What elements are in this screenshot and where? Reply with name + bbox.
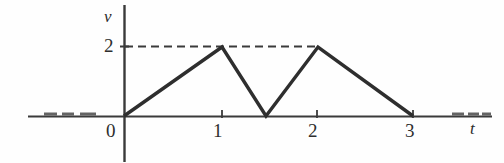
x-tick-label-3: 3 xyxy=(405,121,415,140)
y-tick-label-2: 2 xyxy=(104,36,114,55)
scan-artifacts-left xyxy=(44,113,96,116)
velocity-curve xyxy=(124,47,413,116)
y-axis-label: v xyxy=(104,8,112,25)
x-tick-label-1: 1 xyxy=(213,121,223,140)
velocity-time-graph-figure: v t 2 0 1 2 3 xyxy=(0,0,504,163)
scan-artifacts-right xyxy=(452,113,491,116)
x-axis-label: t xyxy=(470,120,475,137)
plot-canvas xyxy=(0,0,504,163)
origin-label: 0 xyxy=(106,121,116,140)
x-tick-label-2: 2 xyxy=(308,121,318,140)
